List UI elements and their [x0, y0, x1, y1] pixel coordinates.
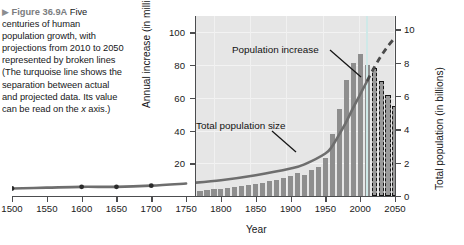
y-axis-left-spine	[195, 16, 196, 197]
x-axis-tick-label: 1600	[71, 203, 92, 214]
y-axis-right-tick-label: 8	[404, 57, 426, 68]
y-axis-right-spine	[395, 16, 396, 197]
y-axis-right-title: Total population (in billions)	[434, 67, 445, 190]
x-axis-tick	[82, 197, 83, 202]
y-axis-right-tick	[396, 29, 401, 30]
y-axis-right-tick-label: 2	[404, 157, 426, 168]
y-axis-left-tick	[190, 32, 195, 33]
y-axis-left-tick	[190, 163, 195, 164]
figure-36-9a: ▶ Figure 36.9A Five centuries of human p…	[0, 0, 464, 245]
y-axis-right-tick	[396, 129, 401, 130]
y-axis-left-title: Annual increase (in millions)	[141, 0, 152, 108]
y-axis-left-tick	[190, 98, 195, 99]
annotation-total-population-size: Total population size	[196, 120, 285, 131]
y-axis-right-tick-label: 0	[404, 191, 426, 202]
y-axis-right-tick-label: 10	[404, 24, 426, 35]
total-population-curve	[196, 16, 395, 196]
y-axis-right-tick	[396, 163, 401, 164]
early-population-curve-region	[12, 16, 196, 196]
y-axis-left-tick	[190, 131, 195, 132]
x-axis-tick	[116, 197, 117, 202]
data-point-marker	[79, 184, 84, 189]
data-point-marker	[114, 184, 119, 189]
x-axis-tick-label: 1500	[1, 203, 22, 214]
x-axis-tick-label: 1550	[36, 203, 57, 214]
x-axis-tick	[291, 197, 292, 202]
total-population-curve-projected	[367, 38, 395, 81]
x-axis-tick	[47, 197, 48, 202]
y-axis-right-tick-label: 6	[404, 91, 426, 102]
x-axis-tick-label: 2000	[350, 203, 371, 214]
x-axis-tick-label: 1800	[210, 203, 231, 214]
x-axis-tick	[360, 197, 361, 202]
y-axis-right-tick	[396, 196, 401, 197]
annotation-population-increase: Population increase	[232, 44, 319, 55]
y-axis-left-tick	[190, 65, 195, 66]
x-axis-tick	[325, 197, 326, 202]
x-axis-tick-label: 1700	[141, 203, 162, 214]
x-axis-tick	[221, 197, 222, 202]
y-axis-right-title-wrap: Total population (in billions)	[434, 0, 456, 200]
x-axis-spine	[12, 196, 396, 197]
x-axis-tick	[256, 197, 257, 202]
x-axis-tick-label: 1750	[175, 203, 196, 214]
y-axis-right-tick-label: 4	[404, 124, 426, 135]
x-axis-tick	[186, 197, 187, 202]
x-axis-tick-label: 1850	[245, 203, 266, 214]
plot-panel	[196, 16, 395, 196]
caption-triangle-icon: ▶	[2, 7, 9, 17]
data-point-marker	[12, 186, 14, 191]
total-population-curve-actual	[196, 81, 367, 184]
x-axis-tick-label: 1950	[315, 203, 336, 214]
y-axis-right-tick	[396, 96, 401, 97]
y-axis-left-title-wrap: Annual increase (in millions)	[143, 0, 165, 200]
y-axis-right-tick	[396, 63, 401, 64]
x-axis-tick-label: 2050	[384, 203, 405, 214]
x-axis-tick	[12, 197, 13, 202]
x-axis-tick-label: 1650	[106, 203, 127, 214]
x-axis-title: Year	[246, 224, 267, 235]
x-axis-tick-label: 1900	[280, 203, 301, 214]
x-axis-tick	[395, 197, 396, 202]
